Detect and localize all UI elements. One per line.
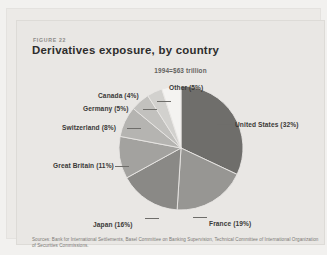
leader-line-canada <box>157 101 171 102</box>
slice-label-france: France (19%) <box>209 220 251 227</box>
leader-line-great-britain <box>115 166 129 167</box>
pie-chart <box>117 84 245 212</box>
slice-label-switzerland: Switzerland (8%) <box>62 124 116 131</box>
scan-frame: FIGURE 22 Derivatives exposure, by count… <box>6 8 321 239</box>
slice-label-japan: Japan (16%) <box>93 221 133 228</box>
pie-slice-group <box>119 86 243 210</box>
leader-line-japan <box>145 218 159 219</box>
pie-chart-svg <box>117 84 245 212</box>
leader-line-united-states <box>217 124 233 125</box>
leader-line-germany <box>143 109 157 110</box>
leader-line-other <box>189 94 190 106</box>
slice-label-other: Other (5%) <box>169 84 203 91</box>
leader-line-france <box>193 217 207 218</box>
slice-label-canada: Canada (4%) <box>98 92 139 99</box>
leader-line-switzerland <box>127 128 141 129</box>
slice-label-great-britain: Great Britain (11%) <box>53 162 114 169</box>
page-title: Derivatives exposure, by country <box>32 44 219 56</box>
slice-label-germany: Germany (5%) <box>83 105 129 112</box>
slice-label-united-states: United States (32%) <box>235 121 298 128</box>
chart-subtitle: 1994=$63 trillion <box>17 67 327 74</box>
figure-card: FIGURE 22 Derivatives exposure, by count… <box>0 0 327 255</box>
figure-number: FIGURE 22 <box>33 37 66 43</box>
chart-panel: FIGURE 22 Derivatives exposure, by count… <box>16 20 325 245</box>
source-note: Sources: Bank for International Settleme… <box>32 237 322 249</box>
